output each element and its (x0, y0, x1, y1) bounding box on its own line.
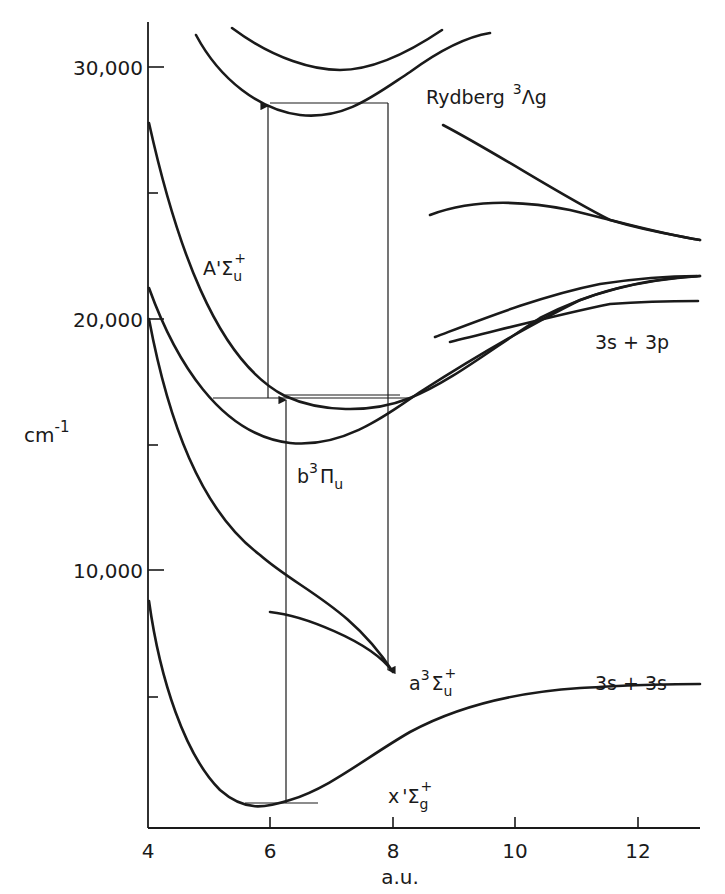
state-labels: Rydberg3Λg A'Σu+ 3s + 3p b3Πu a3Σu+ 3s +… (203, 81, 669, 812)
y-tick-label-20000: 20,000 (73, 308, 143, 332)
label-a-state: a3Σu+ (409, 665, 456, 699)
x-tick-label-8: 8 (387, 839, 400, 863)
curve-b-triplet-pi-u (149, 276, 700, 444)
label-3s3p: 3s + 3p (595, 331, 669, 353)
x-tick-label-10: 10 (502, 839, 527, 863)
label-rydberg: Rydberg3Λg (426, 81, 547, 108)
x-tick-label-4: 4 (142, 839, 155, 863)
curve-rydberg-descending-line (443, 125, 700, 240)
y-axis-label: cm-1 (24, 418, 69, 447)
label-X-state: x'Σg+ (388, 778, 432, 812)
x-axis-label: a.u. (381, 865, 419, 889)
y-axis-label-exponent: -1 (54, 418, 69, 436)
y-axis-label-base: cm (24, 423, 54, 447)
label-A-state: A'Σu+ (203, 250, 246, 284)
transitions (213, 103, 410, 803)
label-3s3s: 3s + 3s (595, 672, 667, 694)
x-tick-label-12: 12 (625, 839, 650, 863)
potential-energy-diagram: 30,000 20,000 10,000 4 6 8 10 12 a.u. cm… (0, 0, 725, 894)
curve-rydberg-upper (232, 28, 442, 70)
y-tick-label-30000: 30,000 (73, 56, 143, 80)
curve-X-ground-state (149, 601, 700, 806)
x-tick-label-6: 6 (264, 839, 277, 863)
axes: 30,000 20,000 10,000 4 6 8 10 12 a.u. cm… (24, 22, 700, 889)
curve-a-triplet-sigma-u (149, 319, 393, 672)
y-tick-label-10000: 10,000 (73, 559, 143, 583)
curve-rydberg-lower-branch (430, 203, 700, 240)
label-b-state: b3Πu (297, 460, 343, 492)
